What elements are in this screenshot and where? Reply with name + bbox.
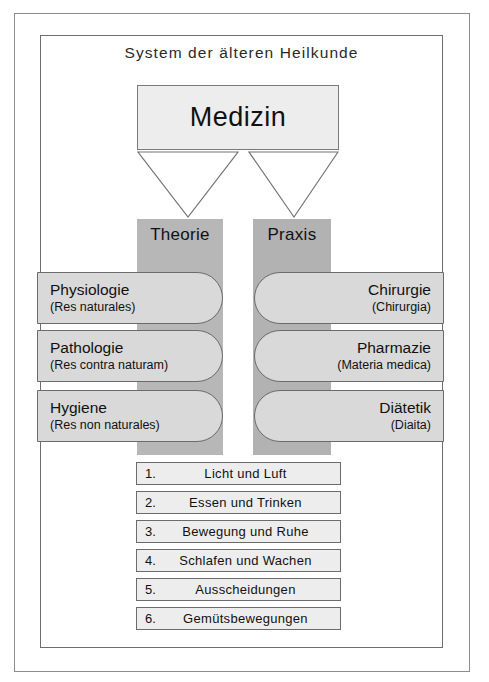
list-item: 5. Ausscheidungen (136, 578, 341, 601)
praxis-item-latin: (Chirurgia) (372, 299, 431, 315)
list-item: 1. Licht und Luft (136, 462, 341, 485)
theorie-item-latin: (Res contra naturam) (50, 357, 168, 373)
list-item-label: Essen und Trinken (137, 495, 340, 510)
res-non-naturales-list: 1. Licht und Luft 2. Essen und Trinken 3… (136, 462, 341, 636)
list-item-number: 5. (145, 582, 156, 597)
list-item-label: Gemütsbewegungen (137, 611, 340, 626)
theorie-item-pathologie: Pathologie (Res contra naturam) (37, 330, 223, 382)
theorie-item-latin: (Res naturales) (50, 299, 135, 315)
praxis-item-chirurgie: Chirurgie (Chirurgia) (254, 272, 444, 324)
list-item-label: Schlafen und Wachen (137, 553, 340, 568)
praxis-item-name: Chirurgie (368, 281, 431, 299)
branch-arrows (137, 151, 339, 219)
praxis-item-name: Pharmazie (357, 339, 431, 357)
list-item-number: 3. (145, 524, 156, 539)
column-theorie-label: Theorie (137, 225, 223, 245)
praxis-item-name: Diätetik (379, 399, 431, 417)
arrow-triangle-right (249, 152, 338, 217)
diagram-title: System der älteren Heilkunde (40, 44, 443, 62)
root-node-medizin: Medizin (137, 85, 339, 150)
list-item-label: Licht und Luft (137, 466, 340, 481)
praxis-item-latin: (Diaita) (391, 417, 431, 433)
list-item-number: 1. (145, 466, 156, 481)
list-item: 6. Gemütsbewegungen (136, 607, 341, 630)
arrow-triangle-left (138, 152, 238, 217)
list-item-number: 6. (145, 611, 156, 626)
praxis-item-pharmazie: Pharmazie (Materia medica) (254, 330, 444, 382)
theorie-item-name: Hygiene (50, 399, 107, 417)
list-item-label: Bewegung und Ruhe (137, 524, 340, 539)
list-item-label: Ausscheidungen (137, 582, 340, 597)
list-item: 4. Schlafen und Wachen (136, 549, 341, 572)
list-item: 2. Essen und Trinken (136, 491, 341, 514)
theorie-item-name: Pathologie (50, 339, 123, 357)
list-item: 3. Bewegung und Ruhe (136, 520, 341, 543)
theorie-item-name: Physiologie (50, 281, 129, 299)
praxis-item-latin: (Materia medica) (337, 357, 431, 373)
theorie-item-latin: (Res non naturales) (50, 417, 160, 433)
root-node-label: Medizin (190, 102, 287, 133)
theorie-item-hygiene: Hygiene (Res non naturales) (37, 390, 223, 442)
list-item-number: 2. (145, 495, 156, 510)
praxis-item-diaetetik: Diätetik (Diaita) (254, 390, 444, 442)
list-item-number: 4. (145, 553, 156, 568)
column-praxis-label: Praxis (253, 225, 331, 245)
theorie-item-physiologie: Physiologie (Res naturales) (37, 272, 223, 324)
arrow-triangles-svg (137, 151, 339, 219)
